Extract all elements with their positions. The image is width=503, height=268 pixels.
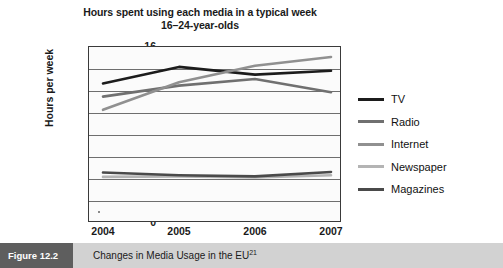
legend-item-magazines[interactable]: Magazines	[358, 178, 498, 201]
legend-item-internet[interactable]: Internet	[358, 133, 498, 156]
legend-item-radio[interactable]: Radio	[358, 111, 498, 134]
legend-label: TV	[391, 93, 405, 105]
legend-swatch-icon	[358, 120, 384, 123]
legend-label: Magazines	[391, 183, 444, 195]
chart-title: Hours spent using each media in a typica…	[0, 6, 400, 32]
x-axis-tick-2007: 2007	[303, 225, 359, 237]
legend-swatch-icon	[358, 98, 384, 101]
figure-container: Hours spent using each media in a typica…	[0, 0, 503, 268]
figure-caption-bar: Figure 12.2 Changes in Media Usage in th…	[0, 243, 503, 268]
figure-number-label: Figure 12.2	[8, 250, 58, 261]
chart-title-line1: Hours spent using each media in a typica…	[83, 6, 316, 18]
legend-swatch-icon	[358, 165, 384, 168]
x-axis-tick-2005: 2005	[151, 225, 207, 237]
legend-item-newspaper[interactable]: Newspaper	[358, 156, 498, 179]
x-axis-tick-2004: 2004	[75, 225, 131, 237]
legend-label: Newspaper	[391, 161, 447, 173]
legend-label: Radio	[391, 116, 420, 128]
legend-swatch-icon	[358, 143, 384, 146]
y-axis-label: Hours per week	[43, 35, 55, 141]
figure-caption-text: Changes in Media Usage in the EU21	[93, 249, 257, 261]
legend-swatch-icon	[358, 188, 384, 191]
figure-caption-superscript: 21	[249, 249, 257, 256]
chart-title-line2: 16–24-year-olds	[0, 19, 400, 32]
x-axis-tick-2006: 2006	[227, 225, 283, 237]
chart-legend: TVRadioInternetNewspaperMagazines	[358, 88, 498, 201]
series-lines	[88, 46, 341, 222]
figure-number-box: Figure 12.2	[0, 243, 73, 268]
figure-caption-main: Changes in Media Usage in the EU	[93, 251, 249, 262]
legend-label: Internet	[391, 138, 428, 150]
series-line-radio	[103, 79, 331, 97]
legend-item-tv[interactable]: TV	[358, 88, 498, 111]
